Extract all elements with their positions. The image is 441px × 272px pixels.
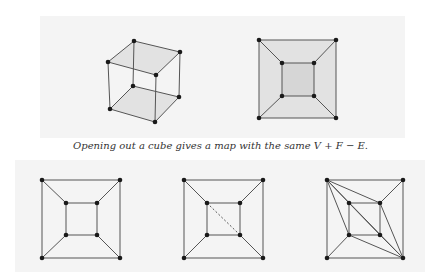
vertex-dot [40,256,45,261]
edge [42,235,66,258]
vertex-dot [347,201,352,206]
vertex-dot [182,256,187,261]
vertex-dot [325,178,330,183]
vertex-dot [261,178,266,183]
vertex-dot [401,178,406,183]
cube-figure [106,39,183,125]
vertex-dot [378,201,383,206]
vertex-dot [118,256,123,261]
edge [184,235,207,258]
vertex-dot [401,256,406,261]
caption: Opening out a cube gives a map with the … [0,140,441,151]
vertex-dot [257,116,262,121]
dashed-edge [207,203,240,235]
vertex-dot [108,107,113,112]
vertex-dot [238,233,243,238]
diagram-canvas [0,0,441,272]
vertex-dot [64,233,69,238]
vertex-dot [132,39,137,44]
vertex-dot [261,256,266,261]
edge [380,180,403,203]
triangulated-graph-figure [325,178,406,261]
planar-graph-with-diagonal-figure [182,178,266,261]
edge [240,180,263,203]
vertex-dot [131,84,136,89]
shaded-face [282,63,314,96]
edge [42,180,66,203]
vertex-dot [280,61,285,66]
edge [108,62,110,109]
edge [179,52,180,97]
shaded-face [108,41,180,75]
edge [97,235,120,258]
edge [240,235,263,258]
vertex-dot [238,201,243,206]
edge [97,180,120,203]
vertex-dot [106,60,111,65]
vertex-dot [312,94,317,99]
vertex-dot [334,116,339,121]
vertex-dot [95,201,100,206]
vertex-dot [378,233,383,238]
edge [184,180,207,203]
vertex-dot [182,178,187,183]
vertex-dot [118,178,123,183]
vertex-dot [64,201,69,206]
vertex-dot [347,233,352,238]
vertex-dot [40,178,45,183]
vertex-dot [178,50,183,55]
vertex-dot [154,73,159,78]
vertex-dot [280,94,285,99]
shaded-face [110,86,179,122]
vertex-dot [312,61,317,66]
planar-graph-figure [40,178,123,261]
vertex-dot [257,38,262,43]
vertex-dot [325,256,330,261]
vertex-dot [95,233,100,238]
cube-map-figure [257,38,339,121]
vertex-dot [205,233,210,238]
vertex-dot [334,38,339,43]
vertex-dot [205,201,210,206]
vertex-dot [153,120,158,125]
edge [327,235,349,258]
vertex-dot [177,95,182,100]
